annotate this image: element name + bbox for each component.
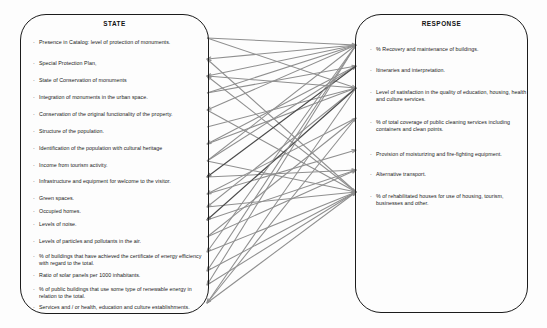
connector-line [207,38,356,88]
connector-line [207,66,356,93]
connector-line [207,45,356,59]
connector-line [207,150,356,194]
connector-line [207,45,356,110]
list-item-label: Provision of moisturizing and fire-fight… [376,151,528,158]
connector-line [207,88,356,303]
list-item[interactable]: ·% of buildings that have achieved the c… [33,253,207,267]
connector-line [207,161,356,192]
connector-line [207,76,356,192]
list-item-label: Structure of the population. [39,128,207,135]
response-panel: RESPONSE ·% Recovery and maintenance of … [355,14,528,313]
list-item[interactable]: ·Provision of moisturizing and fire-figh… [370,151,528,158]
list-item-label: % of buildings that have achieved the ce… [39,253,207,267]
list-item-label: Special Protection Plan, [39,60,207,67]
list-item-label: % of rehabilitated houses for use of hou… [376,193,528,207]
list-item-label: Occupied homes. [39,208,207,215]
list-item[interactable]: ·% of public buildings that use some typ… [33,286,207,300]
connector-line [207,118,356,237]
state-panel: STATE ·Presence in Catalog: level of pro… [20,14,209,314]
connector-line [207,45,356,93]
list-item-label: Levels of particles and pollutants in th… [39,238,207,245]
connector-line [207,59,356,192]
connector-line [207,192,356,271]
list-item-label: % of total coverage of public cleaning s… [376,119,528,133]
list-item-label: % of public buildings that use some type… [39,286,207,300]
connector-line [207,192,356,252]
connector-line [207,45,356,252]
list-item[interactable]: ·% of rehabilitated houses for use of ho… [370,193,528,207]
connector-line [207,38,356,45]
list-item[interactable]: ·Alternative transport. [370,171,528,178]
state-panel-title: STATE [21,20,208,27]
list-item[interactable]: ·Services and / or health, education and… [33,304,207,311]
connector-line [207,88,356,207]
list-item-label: Level of satisfaction in the quality of … [376,89,528,103]
list-item[interactable]: ·Integration of monuments in the urban s… [33,94,207,101]
connector-line [207,192,356,303]
response-panel-title: RESPONSE [356,20,527,27]
connector-line [207,118,356,303]
list-item[interactable]: ·% Recovery and maintenance of buildings… [370,46,528,53]
connector-line [207,66,356,161]
list-item[interactable]: ·Presence in Catalog: level of protectio… [33,39,207,46]
list-item-label: Infrastructure and equipment for welcome… [39,178,207,185]
list-item[interactable]: ·Occupied homes. [33,208,207,215]
list-item[interactable]: ·State of Conservation of monuments [33,77,207,84]
connector-line [207,192,356,285]
connector-line [207,170,356,177]
list-item-label: Identification of the population with cu… [39,145,207,152]
connector-line [207,88,356,127]
connector-line [207,45,356,285]
list-item-label: Integration of monuments in the urban sp… [39,94,207,101]
list-item-label: % Recovery and maintenance of buildings. [376,46,528,53]
connector-line [207,45,356,271]
list-item[interactable]: ·Identification of the population with c… [33,145,207,152]
list-item-label: Income from tourism activity. [39,162,207,169]
list-item-label: Presence in Catalog: level of protection… [39,39,207,46]
diagram-canvas: STATE ·Presence in Catalog: level of pro… [0,0,547,328]
list-item[interactable]: ·Conservation of the original functional… [33,111,207,118]
connector-line [207,118,356,194]
connector-line [207,45,356,76]
list-item[interactable]: ·% of total coverage of public cleaning … [370,119,528,133]
connector-line [207,170,356,220]
list-item[interactable]: ·Levels of particles and pollutants in t… [33,238,207,245]
list-item-label: Levels of noise. [39,221,207,228]
connector-line [207,66,356,144]
connector-line [207,88,356,144]
connector-line [207,170,356,237]
list-item[interactable]: ·Level of satisfaction in the quality of… [370,89,528,103]
connector-line [207,88,356,220]
connector-line [207,66,356,177]
connector-line [207,192,356,207]
list-item[interactable]: ·Levels of noise. [33,221,207,228]
list-item-label: Itineraries and interpretation. [376,67,528,74]
list-item-label: Services and / or health, education and … [39,304,207,311]
list-item-label: Ratio of solar panels per 1000 inhabitan… [39,272,207,279]
connector-line [207,45,356,161]
list-item-label: Conservation of the original functionali… [39,111,207,118]
connector-line [207,110,356,192]
list-item[interactable]: ·Special Protection Plan, [33,60,207,67]
list-item-label: Alternative transport. [376,171,528,178]
list-item[interactable]: ·Green spaces. [33,195,207,202]
list-item[interactable]: ·Itineraries and interpretation. [370,67,528,74]
list-item[interactable]: ·Infrastructure and equipment for welcom… [33,178,207,185]
list-item[interactable]: ·Ratio of solar panels per 1000 inhabita… [33,272,207,279]
list-item[interactable]: ·Income from tourism activity. [33,162,207,169]
list-item-label: State of Conservation of monuments [39,77,207,84]
list-item-label: Green spaces. [39,195,207,202]
connector-line [207,76,356,88]
list-item[interactable]: ·Structure of the population. [33,128,207,135]
